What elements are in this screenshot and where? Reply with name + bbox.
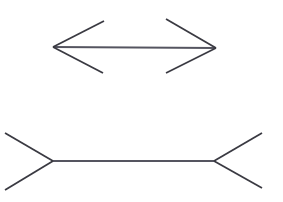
canvas-background <box>0 0 283 202</box>
top-shaft-line <box>53 47 216 48</box>
muller-lyer-illusion-canvas <box>0 0 283 202</box>
